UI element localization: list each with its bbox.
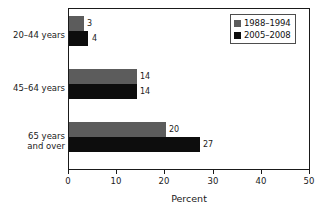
bar-2005-2008-45-64 <box>69 84 137 99</box>
legend-swatch-icon-1988-1994 <box>234 20 241 27</box>
legend-item-2005-2008: 2005–2008 <box>234 29 291 41</box>
legend-label-1988-1994: 1988–1994 <box>244 18 291 28</box>
bar-1988-1994-65-over <box>69 122 166 137</box>
category-label-45-64: 45–64 years <box>0 83 65 93</box>
bar-1988-1994-45-64 <box>69 69 137 84</box>
xtick-mark-20 <box>164 170 165 174</box>
xtick-mark-10 <box>116 170 117 174</box>
xtick-mark-30 <box>213 170 214 174</box>
xtick-label-40: 40 <box>246 176 276 186</box>
bar-1988-1994-20-44 <box>69 16 84 31</box>
x-axis-title: Percent <box>68 193 310 204</box>
chart-figure: 3 4 14 14 20 27 1988–1994 2005–2008 20–4… <box>0 0 332 216</box>
legend: 1988–1994 2005–2008 <box>230 14 296 44</box>
legend-swatch-icon-2005-2008 <box>234 32 241 39</box>
xtick-mark-40 <box>261 170 262 174</box>
bar-value-1988-1994-45-64: 14 <box>140 69 150 84</box>
bar-value-1988-1994-20-44: 3 <box>87 16 92 31</box>
category-label-65-over: 65 years and over <box>0 131 65 151</box>
xtick-label-20: 20 <box>149 176 179 186</box>
xtick-label-0: 0 <box>53 176 83 186</box>
legend-item-1988-1994: 1988–1994 <box>234 17 291 29</box>
xtick-mark-0 <box>68 170 69 174</box>
xtick-label-50: 50 <box>294 176 324 186</box>
bar-value-2005-2008-45-64: 14 <box>140 84 150 99</box>
xtick-label-30: 30 <box>198 176 228 186</box>
bar-2005-2008-65-over <box>69 137 200 152</box>
bar-2005-2008-20-44 <box>69 31 88 46</box>
xtick-mark-50 <box>309 170 310 174</box>
category-label-20-44: 20–44 years <box>0 30 65 40</box>
bar-value-1988-1994-65-over: 20 <box>169 122 179 137</box>
plot-area: 3 4 14 14 20 27 1988–1994 2005–2008 <box>68 8 310 170</box>
legend-label-2005-2008: 2005–2008 <box>244 30 291 40</box>
bar-value-2005-2008-20-44: 4 <box>92 31 97 46</box>
bar-value-2005-2008-65-over: 27 <box>203 137 213 152</box>
xtick-label-10: 10 <box>101 176 131 186</box>
